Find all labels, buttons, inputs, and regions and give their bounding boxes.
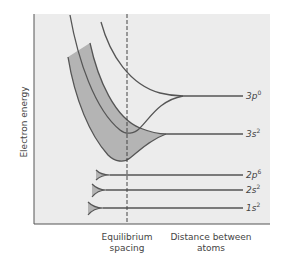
energy-band-diagram: 3p0 3s2 2p6 2s2 1s2 Electron energy Equi… — [0, 0, 281, 269]
distance-label-line2: atoms — [197, 243, 225, 253]
plot-background — [34, 14, 270, 224]
equilibrium-label-line2: spacing — [110, 243, 145, 253]
equilibrium-label-line1: Equilibrium — [102, 232, 153, 242]
y-axis-label: Electron energy — [19, 86, 29, 158]
distance-label-line1: Distance between — [170, 232, 251, 242]
